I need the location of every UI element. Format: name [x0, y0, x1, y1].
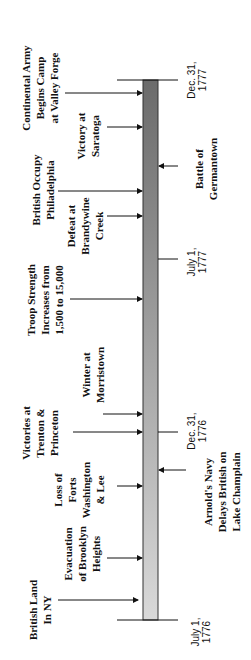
date-label-dec-1776: Dec. 31,1776 [186, 412, 208, 449]
event-label-evacuation-brooklyn-line: Evacuation [62, 527, 74, 580]
event-label-defeat-brandywine-line: Defeat at [65, 204, 77, 247]
event-label-loss-forts-line: & Lee [94, 475, 106, 504]
date-label-dec-1776-line: 1776 [197, 419, 208, 442]
event-label-trenton-princeton: Victories atTrenton &Princeton [20, 406, 60, 460]
date-label-july-1776-line: 1776 [201, 620, 212, 643]
event-label-british-land-ny-line: In NY [41, 595, 53, 624]
date-label-july-1777: July 1,1777 [186, 248, 208, 277]
event-label-victory-saratoga-line: Victory at [75, 112, 87, 159]
event-label-defeat-brandywine: Defeat atBrandywineCreek [65, 197, 105, 255]
event-label-evacuation-brooklyn-line: Heights [90, 535, 102, 572]
event-label-loss-forts-line: Forts [66, 477, 78, 503]
event-label-british-occupy-philadelphia-line: British Occupy [30, 154, 42, 226]
event-label-trenton-princeton-line: Victories at [20, 406, 32, 460]
event-label-evacuation-brooklyn: Evacuationof BrooklynHeights [62, 526, 102, 582]
event-label-loss-forts-line: Loss of [52, 473, 64, 507]
event-label-arnolds-navy-line: Lake Champlain [230, 452, 242, 531]
event-label-victory-saratoga: Victory atSaratoga [75, 112, 101, 159]
date-label-dec-1777: Dec. 31,1777 [186, 61, 208, 98]
event-label-winter-morristown-line: Morristown [94, 347, 106, 403]
event-label-battle-germantown-line: Battle of [193, 149, 205, 189]
event-label-loss-forts: Loss ofFortsWashington& Lee [52, 462, 106, 518]
event-label-winter-morristown: Winter atMorristown [80, 347, 106, 403]
event-label-evacuation-brooklyn-line: of Brooklyn [76, 526, 88, 582]
event-label-battle-germantown: Battle ofGermantown [193, 138, 219, 200]
event-label-winter-morristown-line: Winter at [80, 352, 92, 397]
event-label-british-occupy-philadelphia: British OccupyPhiladelphia [30, 154, 56, 226]
date-label-july-1777-line: July 1, [186, 248, 197, 277]
date-label-dec-1777-line: Dec. 31, [186, 61, 197, 98]
date-label-dec-1777-line: 1777 [197, 68, 208, 91]
date-label-dec-1776-line: Dec. 31, [186, 412, 197, 449]
event-label-battle-germantown-line: Germantown [207, 138, 219, 200]
date-label-july-1776-line: July 1, [190, 618, 201, 647]
event-label-arnolds-navy-line: Delays British on [216, 452, 228, 533]
event-label-defeat-brandywine-line: Brandywine [79, 197, 91, 255]
event-label-loss-forts-line: Washington [80, 462, 92, 518]
timeline-bar [143, 80, 158, 620]
event-label-british-land-ny: British LandIn NY [27, 580, 53, 640]
date-label-july-1776: July 1,1776 [190, 618, 212, 647]
event-label-arnolds-navy: Arnold's NavyDelays British onLake Champ… [202, 452, 242, 533]
event-label-troop-strength-line: Increases from [39, 265, 51, 335]
event-label-defeat-brandywine-line: Creek [93, 211, 105, 240]
date-label-july-1777-line: 1777 [197, 250, 208, 273]
event-label-trenton-princeton-line: Trenton & [34, 408, 46, 457]
event-label-troop-strength: Troop StrengthIncreases from1,500 to 15,… [25, 264, 65, 336]
event-label-valley-forge-line: at Valley Forge [48, 52, 60, 123]
event-label-trenton-princeton-line: Princeton [48, 410, 60, 456]
event-label-troop-strength-line: 1,500 to 15,000 [53, 265, 65, 335]
event-arrows [58, 93, 186, 600]
event-label-valley-forge-line: Continental Army [20, 45, 32, 131]
event-label-british-land-ny-line: British Land [27, 580, 39, 640]
event-label-victory-saratoga-line: Saratoga [89, 114, 101, 157]
timeline-diagram: British LandIn NYEvacuationof BrooklynHe… [0, 0, 251, 660]
event-label-valley-forge-line: Begins Camp [34, 57, 46, 120]
event-label-british-occupy-philadelphia-line: Philadelphia [44, 160, 56, 220]
event-label-troop-strength-line: Troop Strength [25, 264, 37, 336]
event-label-valley-forge: Continental ArmyBegins Campat Valley For… [20, 45, 60, 131]
event-label-arnolds-navy-line: Arnold's Navy [202, 457, 214, 526]
